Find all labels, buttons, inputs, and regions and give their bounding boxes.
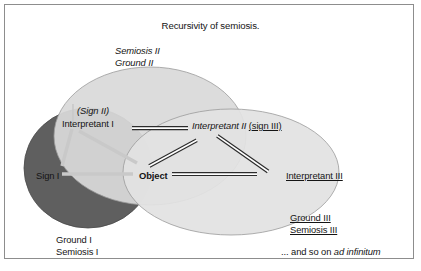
label-interpretant-2-alias: (sign III) bbox=[249, 120, 282, 131]
label-interpretant-1: Interpretant I bbox=[62, 118, 114, 130]
label-semiosis-2-line1: Semiosis II bbox=[115, 45, 160, 57]
label-footer-plain: ... and so on bbox=[281, 246, 334, 257]
label-interpretant-3: Interpretant III bbox=[286, 170, 343, 182]
label-sign-1: Sign I bbox=[36, 170, 59, 182]
label-semiosis-3: Ground III Semiosis III bbox=[290, 212, 337, 235]
label-interpretant-2: Interpretant II (sign III) bbox=[192, 120, 282, 132]
label-semiosis-1: Ground I Semiosis I bbox=[56, 234, 98, 257]
diagram-canvas bbox=[0, 0, 421, 271]
label-semiosis-2-line2: Ground II bbox=[115, 57, 160, 69]
label-semiosis-2: Semiosis II Ground II bbox=[115, 45, 160, 68]
label-interpretant-2-main: Interpretant II bbox=[192, 120, 246, 131]
label-semiosis-3-line2: Semiosis III bbox=[290, 224, 337, 236]
connector-interpretant1-interpretant2 bbox=[132, 126, 188, 129]
label-semiosis-3-line1: Ground III bbox=[290, 212, 337, 224]
label-semiosis-1-line2: Semiosis I bbox=[56, 246, 98, 258]
connector-object-interpretant3 bbox=[172, 172, 257, 176]
figure-title: Recursivity of semiosis. bbox=[0, 20, 421, 32]
figure-recursivity-of-semiosis: Recursivity of semiosis. Semiosis II Gro… bbox=[0, 0, 421, 271]
label-footer-note: ... and so on ad infinitum bbox=[281, 246, 381, 258]
label-object: Object bbox=[139, 170, 168, 182]
label-semiosis-1-line1: Ground I bbox=[56, 234, 98, 246]
label-sign-2: (Sign II) bbox=[77, 105, 109, 117]
label-footer-italic: ad infinitum bbox=[334, 246, 381, 257]
